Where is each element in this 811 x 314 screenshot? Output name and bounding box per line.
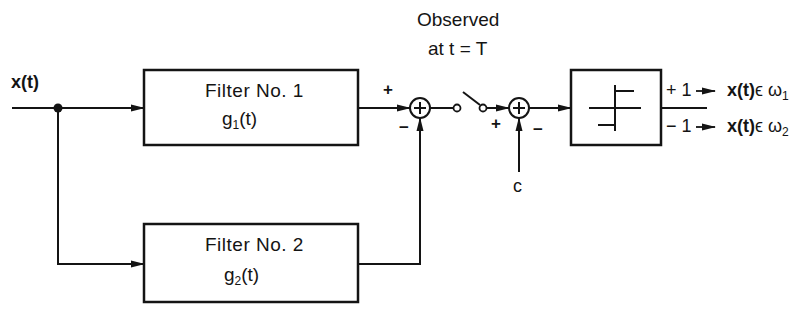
output-class-1: x(t)ϵ ω1 <box>727 80 789 103</box>
filter-1-title: Filter No. 1 <box>205 80 304 102</box>
output-class-2-set: ϵ ω <box>755 116 782 136</box>
output-value-2: − 1 <box>666 116 692 137</box>
filter-2-function: g2(t) <box>224 264 259 288</box>
filter-2-func-arg: (t) <box>241 264 259 285</box>
switch-terminal-2 <box>480 105 487 112</box>
summer-1-plus-sign: + <box>383 80 393 100</box>
filter-1-function: g1(t) <box>222 108 257 132</box>
sampler-caption-line-2: at t = T <box>428 38 487 60</box>
filter-1-func-arg: (t) <box>239 108 257 129</box>
input-label: x(t) <box>11 72 39 93</box>
output-value-1: + 1 <box>666 80 692 101</box>
sign-function-icon <box>589 85 641 131</box>
filter-2-title: Filter No. 2 <box>205 234 304 256</box>
output-class-2-var: x(t) <box>727 116 755 136</box>
threshold-label: c <box>513 176 522 197</box>
junction-dot <box>54 104 63 113</box>
output-class-1-sub: 1 <box>782 89 789 103</box>
summer-2-minus-sign: − <box>533 120 543 140</box>
summer-1-minus-sign: − <box>399 118 409 138</box>
block-diagram-canvas <box>0 0 811 314</box>
filter-2-func-base: g <box>224 264 235 285</box>
summer-2-plus-sign: + <box>491 114 501 134</box>
filter-1-func-base: g <box>222 108 233 129</box>
filter-2-output-line <box>358 118 420 264</box>
branch-line <box>58 108 144 264</box>
sampler-caption-line-1: Observed <box>417 9 499 31</box>
output-class-1-set: ϵ ω <box>755 80 782 100</box>
output-class-2-sub: 2 <box>782 125 789 139</box>
output-class-1-var: x(t) <box>727 80 755 100</box>
switch-terminal-1 <box>454 105 461 112</box>
switch-lever <box>463 92 480 105</box>
output-class-2: x(t)ϵ ω2 <box>727 116 789 139</box>
